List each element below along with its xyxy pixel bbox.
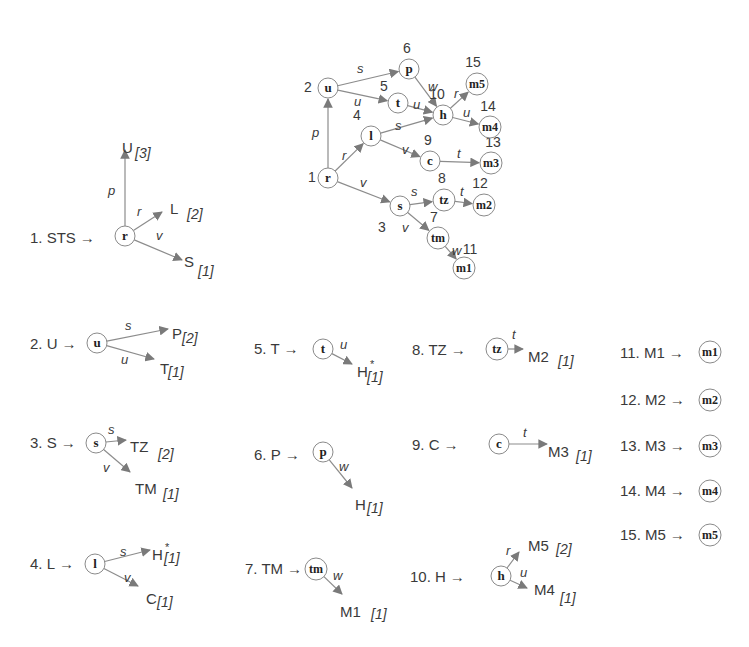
- rule-5: 5. T→tuH*[1]: [254, 337, 384, 385]
- target-count: [1]: [163, 550, 181, 566]
- rule-edge-label: u: [520, 565, 527, 580]
- rule-edge-arrow: [107, 346, 154, 359]
- arrow-icon: →: [59, 555, 74, 572]
- node-label: t: [321, 341, 326, 356]
- target-symbol: L: [170, 200, 178, 217]
- edge-arrow: [410, 202, 432, 205]
- edge-label: v: [360, 175, 368, 190]
- node-label: s: [397, 198, 402, 213]
- target-symbol: M2: [528, 348, 549, 365]
- arrow-icon: →: [451, 341, 466, 358]
- target-count: [1]: [366, 369, 384, 385]
- rule-4: 4. L→lsH*[1]vC[1]: [30, 541, 181, 610]
- rule-node-tm: tm: [305, 558, 327, 580]
- graph-node-l: l: [361, 126, 381, 146]
- node-label: r: [122, 228, 128, 243]
- rule-edge-arrow: [104, 569, 138, 586]
- rule-edge-arrow: [105, 550, 150, 562]
- node-label: u: [324, 80, 331, 95]
- rule-edge-label: v: [156, 228, 164, 243]
- rule-13: 13. M3→m3: [620, 435, 721, 457]
- arrow-icon: →: [61, 434, 76, 451]
- graph-node-tz: tz: [433, 189, 455, 211]
- edge-label: s: [395, 118, 402, 133]
- target-count: [2]: [181, 330, 199, 346]
- edge-label: r: [342, 148, 347, 163]
- node-number: 4: [353, 107, 361, 123]
- node-label: m1: [702, 345, 718, 359]
- node-number: 6: [403, 40, 411, 56]
- arrow-icon: →: [670, 482, 685, 499]
- edge-arrow: [381, 118, 433, 133]
- node-label: l: [93, 556, 97, 571]
- node-label: m3: [702, 439, 718, 453]
- graph-node-m1: m1: [453, 257, 475, 279]
- target-symbol: M1: [340, 603, 361, 620]
- edge-label: s: [411, 184, 418, 199]
- rule-lhs: 7. TM→: [245, 560, 302, 577]
- rule-node-m1: m1: [699, 341, 721, 363]
- target-count: [1]: [162, 486, 180, 502]
- edge-label: w: [452, 243, 463, 258]
- edge-label: s: [357, 61, 364, 76]
- arrow-icon: →: [62, 335, 77, 352]
- node-label: tm: [309, 562, 323, 576]
- node-label: l: [369, 128, 373, 143]
- edge-label: v: [402, 220, 410, 235]
- rule-node-m4: m4: [699, 480, 721, 502]
- graph-node-t: t: [388, 93, 408, 113]
- node-label: p: [405, 61, 412, 76]
- node-number: 9: [424, 132, 432, 148]
- target-symbol: P: [172, 325, 182, 342]
- arrow-icon: →: [284, 340, 299, 357]
- graph-node-c: c: [420, 151, 440, 171]
- rule-edge-arrow: [332, 354, 352, 364]
- rule-edge-label: p: [107, 183, 115, 198]
- rule-lhs: 3. S→: [30, 434, 76, 451]
- rule-6: 6. P→pwH[1]: [254, 442, 384, 516]
- rule-9: 9. C→ctM3[1]: [412, 425, 593, 464]
- graph-node-u: u: [318, 78, 338, 98]
- target-count: [1]: [197, 263, 215, 279]
- node-label: r: [325, 170, 331, 185]
- node-number: 7: [430, 209, 438, 225]
- arrow-icon: →: [669, 344, 684, 361]
- rule-edge-label: t: [512, 327, 517, 342]
- target-count: [1]: [559, 590, 577, 606]
- rule-node-p: p: [313, 442, 333, 462]
- target-count: [1]: [366, 500, 384, 516]
- target-count: [2]: [555, 541, 573, 557]
- node-label: p: [319, 444, 326, 459]
- edge-label: r: [454, 86, 459, 101]
- rule-edge-label: s: [108, 422, 115, 437]
- rule-node-r: r: [115, 226, 135, 246]
- node-number: 14: [480, 98, 496, 114]
- edge-label: t: [457, 146, 462, 161]
- rule-8: 8. TZ→tztM2[1]: [412, 327, 575, 369]
- edge-arrow: [408, 212, 429, 230]
- rule-edge-label: v: [103, 460, 111, 475]
- rule-lhs: 10. H→: [410, 568, 465, 585]
- rule-node-m2: m2: [699, 389, 721, 411]
- rule-lhs: 11. M1→: [620, 344, 684, 361]
- node-label: tm: [431, 231, 445, 245]
- edge-arrow: [455, 201, 472, 203]
- arrow-icon: →: [670, 526, 685, 543]
- edge-arrow: [335, 144, 363, 171]
- node-label: m5: [469, 77, 485, 91]
- rule-edge-arrow: [106, 440, 126, 442]
- graph-node-s: s: [390, 196, 410, 216]
- arrow-icon: →: [444, 436, 459, 453]
- arrow-icon: →: [287, 560, 302, 577]
- node-label: m5: [702, 528, 718, 542]
- node-label: tz: [492, 342, 502, 356]
- rule-edge-label: t: [523, 425, 528, 440]
- rule-edge-label: w: [339, 459, 350, 474]
- graph-node-h: h: [433, 105, 453, 125]
- rule-lhs: 5. T→: [254, 340, 299, 357]
- node-number: 8: [438, 170, 446, 186]
- target-symbol: U: [122, 139, 133, 156]
- rule-node-t: t: [313, 339, 333, 359]
- node-label: s: [93, 435, 98, 450]
- target-count: [1]: [156, 594, 174, 610]
